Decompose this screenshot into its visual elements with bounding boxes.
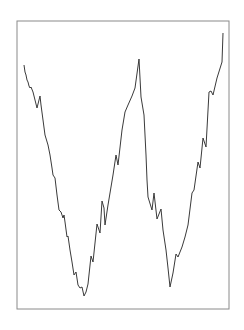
line-chart — [0, 0, 244, 330]
data-line — [24, 33, 223, 296]
